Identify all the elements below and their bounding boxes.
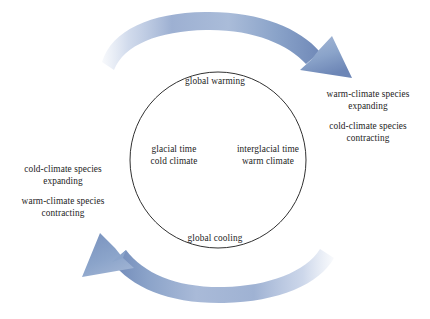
cold-climate-contracting-label: cold-climate species contracting bbox=[306, 121, 430, 145]
global-cooling-label: global cooling bbox=[0, 233, 430, 245]
right-species-response-group: warm-climate species expanding cold-clim… bbox=[306, 89, 430, 145]
left-species-response-group: cold-climate species expanding warm-clim… bbox=[0, 164, 126, 220]
global-warming-label: global warming bbox=[0, 76, 430, 88]
warming-arrow bbox=[102, 12, 352, 78]
interglacial-state-label: interglacial time warm climate bbox=[218, 144, 318, 168]
cold-climate-expanding-label: cold-climate species expanding bbox=[0, 164, 126, 188]
glacial-state-label: glacial time cold climate bbox=[128, 144, 220, 168]
warm-climate-contracting-label: warm-climate species contracting bbox=[0, 196, 126, 220]
warm-climate-expanding-label: warm-climate species expanding bbox=[306, 89, 430, 113]
climate-cycle-diagram: global warming global cooling glacial ti… bbox=[0, 0, 430, 319]
